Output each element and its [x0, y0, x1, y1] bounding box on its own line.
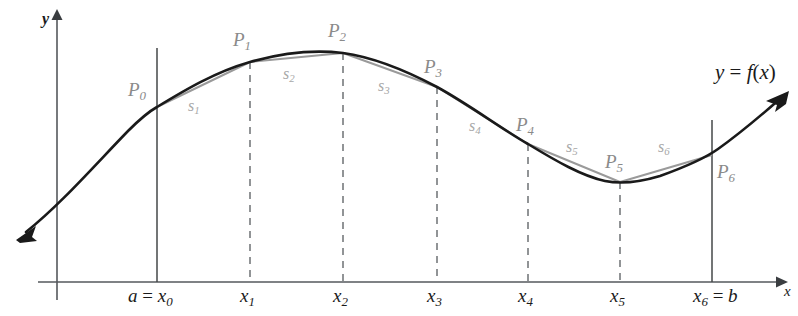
point-name-p5: P [605, 151, 617, 172]
point-sub-p0: 0 [140, 88, 146, 103]
point-label-p5: P5 [605, 152, 623, 175]
segment-label-s2: s2 [283, 66, 295, 84]
y-axis-label: y [42, 11, 49, 27]
curve-left-arrowhead [16, 226, 37, 243]
tick-label-x6: x6 = b [693, 286, 738, 309]
x-axis-label: x [784, 284, 791, 299]
point-label-p4: P4 [516, 115, 534, 138]
segment-label-s3: s3 [378, 78, 390, 96]
tick-equals-x6: = [708, 285, 728, 306]
figure-canvas [0, 0, 798, 316]
tick-sub-x3: 3 [435, 294, 441, 309]
segment-sub-s6: 6 [664, 145, 669, 157]
partition-lines [157, 48, 712, 282]
point-name-p2: P [328, 20, 340, 41]
point-label-p6: P6 [717, 162, 735, 185]
segment-label-s6: s6 [658, 139, 670, 157]
point-name-p0: P [128, 79, 140, 100]
tick-sub-x2: 2 [341, 294, 347, 309]
tick-b-letter: b [728, 285, 738, 306]
function-label-arg: x [760, 60, 769, 84]
tick-label-x1: x1 [240, 286, 255, 309]
tick-name-x0: x [158, 285, 166, 306]
segment-sub-s5: 5 [572, 145, 577, 157]
tick-a-letter: a [128, 285, 138, 306]
point-sub-p3: 3 [436, 65, 442, 80]
segment-label-s5: s5 [566, 139, 578, 157]
function-label-equals: = [724, 60, 746, 84]
segment-label-s4: s4 [469, 118, 481, 136]
point-label-p2: P2 [328, 21, 346, 44]
function-label-close-paren: ) [769, 60, 776, 84]
tick-sub-x1: 1 [248, 294, 254, 309]
tick-label-x0: a = x0 [128, 286, 173, 309]
function-label-y: y [715, 60, 724, 84]
point-name-p1: P [233, 29, 245, 50]
point-label-p1: P1 [233, 30, 251, 53]
point-name-p6: P [717, 161, 729, 182]
tick-label-x5: x5 [610, 286, 625, 309]
point-label-p0: P0 [128, 80, 146, 103]
tick-equals-x0: = [138, 285, 158, 306]
tick-sub-x5: 5 [618, 294, 624, 309]
tick-sub-x0: 0 [166, 294, 172, 309]
point-label-p3: P3 [424, 57, 442, 80]
point-sub-p5: 5 [617, 160, 623, 175]
arc-length-figure: y x y = f(x) P0 P1 P2 P3 P4 P5 P6 s1 s2 … [0, 0, 798, 316]
y-axis [52, 9, 63, 300]
point-name-p4: P [516, 114, 528, 135]
point-sub-p4: 4 [528, 123, 534, 138]
segment-sub-s1: 1 [194, 104, 199, 116]
tick-label-x2: x2 [333, 286, 348, 309]
y-axis-arrowhead [52, 9, 63, 20]
point-sub-p2: 2 [340, 29, 346, 44]
point-sub-p1: 1 [245, 38, 251, 53]
segment-sub-s4: 4 [475, 124, 480, 136]
segment-label-s1: s1 [188, 98, 200, 116]
point-sub-p6: 6 [729, 170, 735, 185]
tick-label-x3: x3 [427, 286, 442, 309]
tick-sub-x4: 4 [526, 294, 532, 309]
function-label-open-paren: ( [753, 60, 760, 84]
point-name-p3: P [424, 56, 436, 77]
function-label: y = f(x) [715, 62, 776, 83]
segment-sub-s3: 3 [384, 84, 389, 96]
segment-sub-s2: 2 [289, 72, 294, 84]
tick-label-x4: x4 [518, 286, 533, 309]
